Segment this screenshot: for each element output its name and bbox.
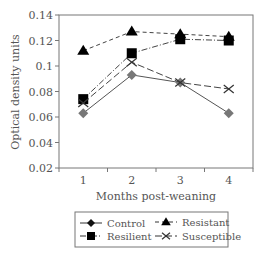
y-tick-label: 0.14 bbox=[29, 9, 54, 22]
y-tick-label: 0.04 bbox=[29, 137, 54, 150]
diamond-marker-icon bbox=[224, 108, 234, 118]
y-axis-label: Optical density units bbox=[9, 34, 22, 150]
x-tick-label: 1 bbox=[80, 174, 87, 187]
series-susceptible bbox=[78, 58, 234, 107]
y-tick-label: 0.06 bbox=[29, 111, 54, 124]
y-tick-label: 0.02 bbox=[29, 162, 54, 175]
line-chart: 0.020.040.060.080.10.120.141234 Optical … bbox=[0, 0, 263, 256]
square-marker-icon bbox=[87, 232, 95, 240]
legend-label: Resilient bbox=[107, 231, 152, 242]
series-line bbox=[83, 39, 229, 99]
series-resilient bbox=[78, 34, 234, 104]
x-tick-label: 2 bbox=[128, 174, 135, 187]
series-control bbox=[78, 70, 234, 118]
x-marker-icon bbox=[127, 58, 137, 66]
legend-label: Resistant bbox=[182, 217, 229, 228]
square-marker-icon bbox=[175, 34, 185, 44]
y-tick-label: 0.12 bbox=[29, 35, 54, 48]
y-tick-label: 0.08 bbox=[29, 86, 54, 99]
triangle-marker-icon bbox=[126, 26, 138, 36]
legend: ControlResistantResilientSusceptible bbox=[75, 212, 241, 247]
diamond-marker-icon bbox=[127, 70, 137, 80]
square-marker-icon bbox=[127, 48, 137, 58]
series-line bbox=[83, 32, 229, 51]
x-tick-label: 3 bbox=[177, 174, 184, 187]
y-tick-label: 0.1 bbox=[36, 60, 54, 73]
series-line bbox=[83, 75, 229, 113]
series-group bbox=[77, 26, 235, 119]
diamond-marker-icon bbox=[78, 108, 88, 118]
x-axis-label: Months post-weaning bbox=[96, 190, 216, 203]
axes: 0.020.040.060.080.10.120.141234 bbox=[29, 9, 254, 187]
x-tick-label: 4 bbox=[225, 174, 232, 187]
series-line bbox=[83, 62, 229, 103]
legend-label: Susceptible bbox=[182, 231, 241, 242]
legend-label: Control bbox=[107, 218, 145, 229]
triangle-marker-icon bbox=[77, 45, 89, 55]
square-marker-icon bbox=[224, 36, 234, 46]
